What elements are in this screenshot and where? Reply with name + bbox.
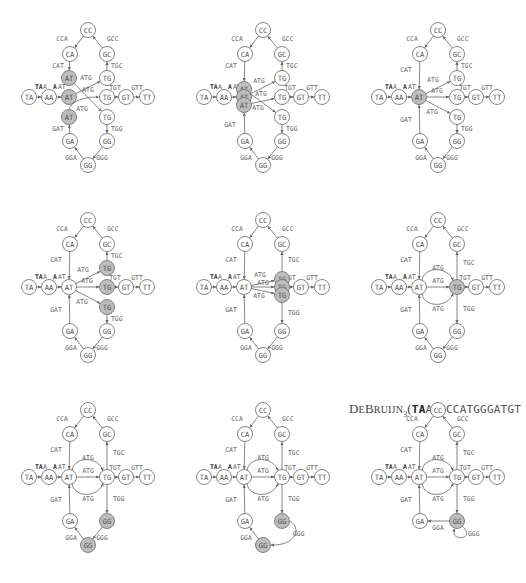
label-ggg: GGG	[96, 344, 108, 352]
label-gat: GAT	[50, 496, 62, 504]
label-atg-3: ATG	[426, 108, 438, 116]
node-ga: GA	[238, 514, 253, 529]
node-tg-1: TG	[450, 71, 465, 86]
label-gtt: GTT	[481, 274, 493, 282]
svg-text:CC: CC	[434, 26, 443, 35]
label-atg-1: ATG	[77, 266, 89, 274]
edge-cat	[419, 251, 420, 279]
label-aat-bold: A	[228, 273, 232, 281]
label-cat: CAT	[400, 66, 412, 74]
label-cat: CAT	[225, 446, 237, 454]
label-atg-3: ATG	[76, 298, 88, 306]
edge-gat	[244, 485, 245, 514]
svg-text:AA: AA	[220, 283, 229, 292]
svg-text:GG: GG	[259, 541, 268, 550]
label-aat-tail: AT	[58, 463, 66, 471]
node-at-3: AT	[237, 98, 252, 113]
label-atg-1: ATG	[80, 74, 92, 82]
node-tg-3: TG	[275, 110, 290, 125]
node-aa: AA	[392, 470, 407, 485]
svg-text:AT: AT	[415, 283, 424, 292]
edge-gcc	[268, 36, 277, 48]
label-ggg: GGG	[96, 154, 108, 162]
label-atg-3: ATG	[76, 105, 88, 113]
label-tgc: TGC	[288, 449, 300, 457]
edge-cca	[250, 36, 259, 48]
label-gtt: GTT	[306, 274, 318, 282]
edge-gat	[69, 295, 70, 324]
edge-gcc	[93, 416, 102, 428]
label-taa-bold: TA	[210, 463, 218, 471]
svg-text:TG: TG	[278, 93, 287, 102]
svg-text:GA: GA	[416, 327, 425, 336]
label-atg-2: ATG	[432, 467, 444, 475]
svg-text:TT: TT	[493, 283, 502, 292]
svg-text:CA: CA	[241, 240, 250, 249]
label-taa-tail: A	[218, 273, 222, 281]
node-ca: CA	[413, 427, 428, 442]
panel-7: CCCAGCTAAAGTTTGATAAAATTGTGTTCCAGCCATTGCA…	[22, 403, 155, 553]
edge-gat	[419, 105, 420, 134]
label-taa-tail: A	[393, 273, 397, 281]
svg-text:AT: AT	[240, 283, 249, 292]
node-tg-2: TG	[275, 90, 290, 105]
svg-text:GC: GC	[453, 50, 462, 59]
label-ggg: GGG	[96, 534, 108, 542]
node-tg-2: TG	[100, 280, 115, 295]
node-at: AT	[412, 470, 427, 485]
svg-text:TT: TT	[493, 473, 502, 482]
svg-text:GC: GC	[103, 240, 112, 249]
label-atg-1: ATG	[432, 454, 444, 462]
node-tg-3: TG	[450, 110, 465, 125]
edge-cca	[75, 226, 84, 238]
node-cc: CC	[81, 403, 96, 418]
edge-gcc	[93, 226, 102, 238]
node-tg: TG	[100, 470, 115, 485]
svg-text:CA: CA	[416, 430, 425, 439]
svg-text:CC: CC	[259, 216, 268, 225]
label-aat-bold: A	[403, 463, 407, 471]
label-gat: GAT	[225, 496, 237, 504]
node-gc: GC	[100, 427, 115, 442]
edge-cca	[425, 226, 434, 238]
svg-text:AT: AT	[65, 473, 74, 482]
node-ca: CA	[413, 237, 428, 252]
panel-3: CCCAGCTAAAGTTTGATAAAATTGTGTTCCAGCCATTGTG…	[372, 23, 505, 173]
node-ta: TA	[197, 470, 212, 485]
label-cat: CAT	[400, 256, 412, 264]
node-tg-3: TG	[100, 110, 115, 125]
svg-text:TG: TG	[278, 473, 287, 482]
svg-text:CC: CC	[259, 26, 268, 35]
label-taa-tail: A	[393, 463, 397, 471]
svg-text:AT: AT	[240, 473, 249, 482]
label-tgg: TGG	[111, 315, 123, 323]
label-atg-1: ATG	[253, 77, 265, 85]
label-atg-3: ATG	[252, 104, 264, 112]
edge-cat	[69, 441, 70, 469]
node-gg-r: GG	[100, 514, 115, 529]
svg-text:GT: GT	[297, 473, 306, 482]
svg-text:GT: GT	[472, 93, 481, 102]
label-atg-3: ATG	[253, 292, 265, 300]
node-gg-b: GG	[256, 538, 271, 553]
svg-text:TA: TA	[200, 473, 209, 482]
node-aa: AA	[392, 90, 407, 105]
node-aa: AA	[42, 470, 57, 485]
label-tgg: TGG	[288, 495, 300, 503]
label-aat-bold: A	[228, 83, 232, 91]
svg-text:CC: CC	[84, 216, 93, 225]
node-at: AT	[62, 280, 77, 295]
svg-text:GG: GG	[278, 327, 287, 336]
node-gg-b: GG	[81, 158, 96, 173]
edge-gat	[419, 485, 420, 514]
svg-text:GA: GA	[66, 327, 75, 336]
svg-text:CA: CA	[241, 430, 250, 439]
label-aat-bold: A	[53, 273, 57, 281]
node-gc: GC	[275, 47, 290, 62]
node-gg-r: GG	[100, 324, 115, 339]
label-cat: CAT	[52, 62, 64, 70]
label-atg-2: ATG	[82, 467, 94, 475]
label-atg-1: ATG	[432, 264, 444, 272]
label-taa-bold: TA	[210, 83, 218, 91]
label-cat: CAT	[225, 62, 237, 70]
